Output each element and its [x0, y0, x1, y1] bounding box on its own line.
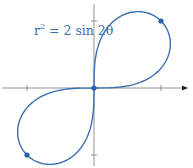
x-axis-arrow-icon — [182, 86, 188, 91]
marked-point — [24, 152, 29, 157]
marked-point — [158, 18, 163, 23]
equation-label: r2 = 2 sin 2θ — [34, 23, 113, 38]
marked-point — [91, 85, 96, 90]
